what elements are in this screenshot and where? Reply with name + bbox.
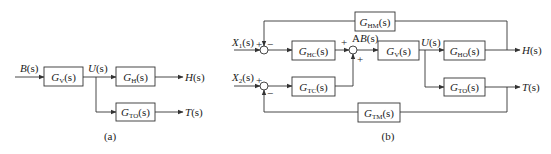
block-gv-label: GV(s) [51,71,76,85]
output-label-t: T(s) [522,81,540,94]
point-label-a: A [352,32,360,44]
branch-arrow-u-to-gto [425,50,444,87]
signal-label-u: U(s) [421,36,441,49]
output-label-h: H(s) [184,71,205,84]
signal-label-b: B(s) [360,32,379,45]
block-diagram-canvas: B(s) GV(s) U(s) GH(s) H(s) GTO(s) T(s) (… [0,0,551,154]
input-label-b: B(s) [20,62,39,75]
block-gv-label: GV(s) [386,45,411,59]
sign-plus-ghc: + [341,36,347,48]
input-label-x1: X1(s) [231,36,254,50]
arrow-gtc-to-sum-a [335,54,353,86]
caption-a: (a) [104,130,117,143]
summing-junction-1 [260,46,268,54]
caption-b: (b) [382,130,395,143]
output-label-t: T(s) [185,106,203,119]
input-label-x2: X2(s) [231,71,254,85]
signal-label-u: U(s) [88,62,108,75]
sign-plus-gtc: + [357,53,363,65]
summing-junction-a [349,46,357,54]
summing-junction-2 [260,82,268,90]
output-label-h: H(s) [521,44,542,57]
panel-a: B(s) GV(s) U(s) GH(s) H(s) GTO(s) T(s) (… [15,62,205,143]
panel-b: X1(s) + − GHC(s) + A B(s) + GV(s) U(s) G… [231,12,542,143]
branch-arrow-u-to-gto [96,77,116,112]
block-gh-label: GH(s) [123,71,148,85]
sign-minus-tm: − [267,87,273,99]
